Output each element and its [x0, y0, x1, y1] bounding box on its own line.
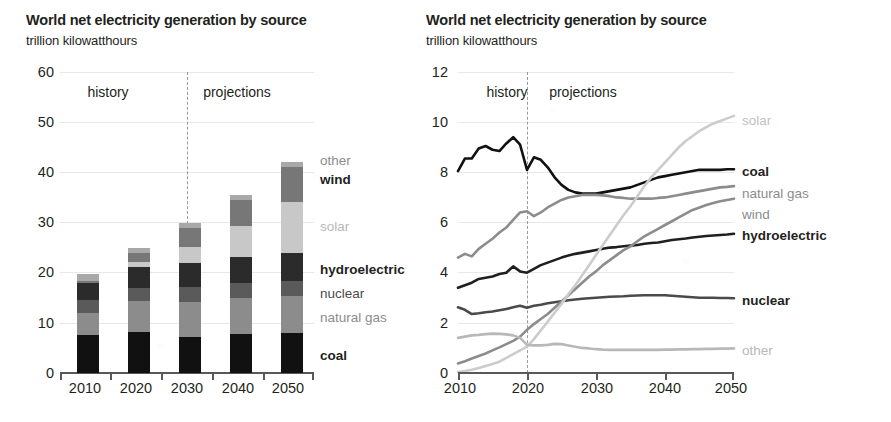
plot-area-stacked: 20.3253035.542	[60, 72, 314, 373]
series-label-hydroelectric-left: hydroelectric	[320, 262, 405, 278]
line-natural-gas	[458, 186, 734, 257]
x-label-2030: 2030	[171, 380, 203, 396]
bar-segment-other-2040	[230, 195, 252, 201]
y-tick-10: 10	[418, 115, 448, 130]
y-tick-30: 30	[14, 215, 54, 230]
bar-segment-nuclear-2030	[179, 287, 201, 302]
series-label-coal-right: coal	[742, 164, 769, 180]
line-hydroelectric	[458, 234, 734, 288]
page-title-left: World net electricity generation by sour…	[26, 12, 307, 28]
x-label-2050: 2050	[272, 380, 304, 396]
chart-subtitle-left: trillion kilowatthours	[26, 33, 137, 48]
x-label-2010: 2010	[69, 380, 101, 396]
bar-segment-coal-2040	[230, 334, 252, 373]
bar-segment-natural-gas-2040	[230, 298, 252, 334]
bar-segment-solar-2030	[179, 247, 201, 264]
bar-segment-wind-2050	[281, 167, 303, 202]
bar-segment-other-2020	[128, 248, 150, 254]
bar-segment-coal-2030	[179, 337, 201, 373]
bar-segment-wind-2030	[179, 228, 201, 247]
series-label-nuclear-left: nuclear	[320, 286, 364, 302]
y-tick-0: 0	[14, 366, 54, 381]
x-label-2040: 2040	[222, 380, 254, 396]
panel-stacked-bar: World net electricity generation by sour…	[0, 0, 430, 422]
bar-segment-coal-2050	[281, 333, 303, 373]
line-nuclear	[458, 295, 734, 314]
bar-segment-hydroelectric-2020	[128, 267, 150, 288]
series-label-coal-left: coal	[320, 348, 347, 364]
y-tick-60: 60	[14, 65, 54, 80]
era-label-projections-left: projections	[203, 84, 271, 100]
y-axis-labels-left: 60 50 40 30 20 10 0	[14, 72, 54, 373]
x-label-r2010: 2010	[444, 380, 476, 396]
series-label-natural-gas-right: natural gas	[742, 186, 809, 202]
era-label-history-left: history	[87, 84, 128, 100]
y-tick-20: 20	[14, 265, 54, 280]
bar-segment-natural-gas-2050	[281, 296, 303, 333]
y-axis-labels-right: 12 10 8 6 4 2 0	[418, 72, 448, 373]
bar-segment-nuclear-2020	[128, 288, 150, 302]
plot-area-lines	[458, 72, 734, 373]
series-label-other-right: other	[742, 343, 773, 359]
bar-segment-nuclear-2010	[77, 300, 99, 313]
bar-segment-coal-2010	[77, 335, 99, 373]
series-label-nuclear-right: nuclear	[742, 293, 790, 309]
chart-subtitle-right: trillion kilowatthours	[426, 33, 537, 48]
bar-segment-nuclear-2050	[281, 281, 303, 296]
series-label-wind-right: wind	[742, 207, 770, 223]
y-tick-6: 6	[418, 215, 448, 230]
bar-segment-solar-2020	[128, 262, 150, 267]
x-axis-labels-left: 2010 2020 2030 2040 2050	[60, 380, 314, 400]
bar-segment-wind-2040	[230, 200, 252, 225]
bar-segment-hydroelectric-2030	[179, 263, 201, 287]
bar-segment-solar-2040	[230, 226, 252, 257]
line-wind	[458, 199, 734, 364]
line-coal	[458, 137, 734, 193]
bar-segment-wind-2010	[77, 281, 99, 283]
y-tick-50: 50	[14, 115, 54, 130]
series-label-hydroelectric-right: hydroelectric	[742, 228, 827, 244]
chart-page: World net electricity generation by sour…	[0, 0, 891, 422]
x-label-r2030: 2030	[581, 380, 613, 396]
bar-segment-other-2050	[281, 162, 303, 167]
page-title-right: World net electricity generation by sour…	[426, 12, 707, 28]
bar-segment-hydroelectric-2050	[281, 253, 303, 281]
y-tick-2: 2	[418, 316, 448, 331]
y-tick-40: 40	[14, 165, 54, 180]
line-series-group	[458, 72, 734, 373]
bar-segment-natural-gas-2030	[179, 302, 201, 337]
bar-segment-hydroelectric-2010	[77, 283, 99, 300]
era-label-history-right: history	[486, 84, 527, 100]
y-tick-8: 8	[418, 165, 448, 180]
series-label-solar-left: solar	[320, 219, 349, 235]
x-axis-labels-right: 2010 2020 2030 2040 2050	[458, 380, 734, 400]
series-label-natural-gas-left: natural gas	[320, 310, 387, 326]
y-tick-0r: 0	[418, 366, 448, 381]
bar-segment-other-2030	[179, 223, 201, 229]
bar-segment-wind-2020	[128, 253, 150, 262]
series-label-wind-left: wind	[320, 172, 351, 188]
series-label-solar-right: solar	[742, 113, 771, 129]
series-label-other-left: other	[320, 153, 351, 169]
x-label-r2020: 2020	[512, 380, 544, 396]
x-label-2020: 2020	[120, 380, 152, 396]
bar-segment-natural-gas-2010	[77, 313, 99, 336]
x-label-r2040: 2040	[649, 380, 681, 396]
bar-segment-solar-2050	[281, 202, 303, 253]
y-tick-12: 12	[418, 65, 448, 80]
bar-segment-natural-gas-2020	[128, 301, 150, 332]
y-tick-4: 4	[418, 265, 448, 280]
bar-segment-nuclear-2040	[230, 283, 252, 299]
x-label-r2050: 2050	[715, 380, 747, 396]
bar-segment-hydroelectric-2040	[230, 257, 252, 283]
era-label-projections-right: projections	[549, 84, 617, 100]
bar-segment-coal-2020	[128, 332, 150, 373]
y-tick-10: 10	[14, 316, 54, 331]
bar-segment-other-2010	[77, 274, 99, 281]
